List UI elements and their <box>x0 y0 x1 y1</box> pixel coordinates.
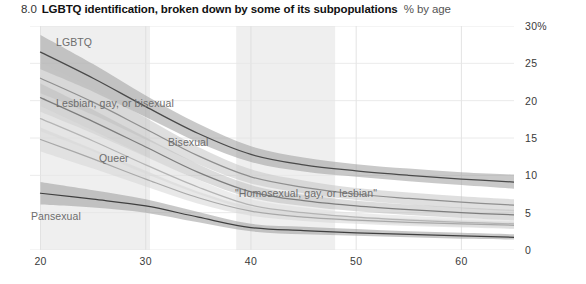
y-tick-label: 15 <box>525 133 537 144</box>
y-tick-label: 25 <box>525 58 537 69</box>
chart-plot-area <box>30 26 514 250</box>
chart-header: 8.0 LGBTQ identification, broken down by… <box>21 3 451 19</box>
y-tick-label: 20 <box>525 96 537 107</box>
y-tick-label: 30% <box>525 21 547 32</box>
chart-canvas <box>30 26 514 250</box>
figure-number: 8.0 <box>21 3 37 15</box>
x-tick-label: 50 <box>350 256 362 267</box>
y-tick-label: 5 <box>525 208 531 219</box>
chart-units-subtitle: % by age <box>404 3 451 15</box>
x-tick-label: 40 <box>245 256 257 267</box>
x-tick-label: 60 <box>455 256 467 267</box>
x-tick-label: 20 <box>34 256 46 267</box>
y-tick-label: 0 <box>525 245 531 256</box>
x-tick-label: 30 <box>140 256 152 267</box>
y-tick-label: 10 <box>525 170 537 181</box>
chart-title: LGBTQ identification, broken down by som… <box>42 3 398 15</box>
